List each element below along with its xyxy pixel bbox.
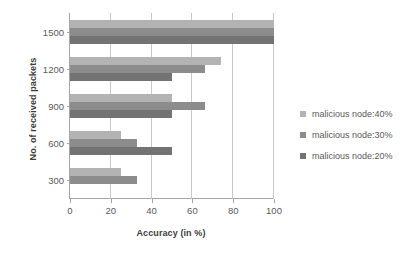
x-tick-mark (70, 199, 71, 203)
x-axis-title: Accuracy (in %) (69, 228, 273, 238)
y-tick-label: 300 (48, 175, 64, 186)
legend-item: malicious node:20% (300, 145, 393, 166)
bar-group: 1500 (70, 13, 273, 50)
x-tick-label: 60 (177, 205, 207, 216)
x-tick-label: 100 (259, 205, 289, 216)
legend-swatch-icon (300, 132, 306, 138)
bar (70, 131, 121, 139)
legend: malicious node:40%malicious node:30%mali… (300, 103, 393, 166)
x-tick-mark (152, 199, 153, 203)
legend-swatch-icon (300, 153, 306, 159)
bar (70, 73, 172, 81)
bar (70, 139, 137, 147)
x-tick-label: 40 (137, 205, 167, 216)
x-tick-label: 80 (218, 205, 248, 216)
x-tick-mark (111, 199, 112, 203)
bar (70, 65, 205, 73)
bar (70, 147, 172, 155)
bar (70, 176, 137, 184)
bar (70, 94, 172, 102)
bar (70, 57, 221, 65)
bar-group: 600 (70, 125, 273, 162)
x-tick-mark (233, 199, 234, 203)
plot-area: 15001200900600300 020406080100 (69, 13, 273, 199)
y-tick-label: 1200 (43, 63, 64, 74)
x-tick-label: 20 (96, 205, 126, 216)
y-tick-label: 1500 (43, 26, 64, 37)
bar (70, 36, 274, 44)
y-axis-title: No. of received packets (28, 24, 38, 194)
bar (70, 28, 274, 36)
legend-item: malicious node:40% (300, 103, 393, 124)
legend-swatch-icon (300, 111, 306, 117)
x-tick-mark (274, 199, 275, 203)
bar-group: 300 (70, 162, 273, 199)
y-tick-label: 900 (48, 100, 64, 111)
x-tick-mark (192, 199, 193, 203)
bar (70, 168, 121, 176)
bar (70, 102, 205, 110)
legend-label: malicious node:40% (312, 109, 393, 119)
legend-item: malicious node:30% (300, 124, 393, 145)
x-tick-label: 0 (55, 205, 85, 216)
bar (70, 20, 274, 28)
bar-group: 1200 (70, 50, 273, 87)
bar-group: 900 (70, 87, 273, 124)
legend-label: malicious node:20% (312, 151, 393, 161)
bar (70, 110, 172, 118)
bar-chart: No. of received packets 1500120090060030… (0, 0, 416, 258)
y-tick-label: 600 (48, 138, 64, 149)
legend-label: malicious node:30% (312, 130, 393, 140)
